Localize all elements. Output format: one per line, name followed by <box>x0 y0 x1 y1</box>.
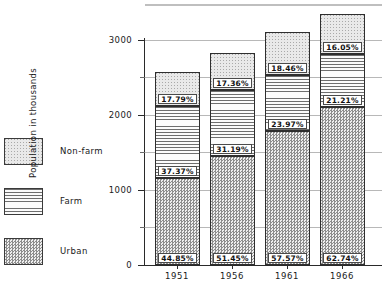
bar-segment-urban[interactable]: 62.74% <box>320 107 365 265</box>
segment-percent-label: 44.85% <box>158 253 197 263</box>
y-tick-minor-500 <box>140 227 145 228</box>
bar-segment-farm[interactable]: 21.21% <box>320 54 365 107</box>
x-axis-line <box>144 265 382 266</box>
bar-segment-non-farm[interactable]: 17.79% <box>155 72 200 106</box>
y-tick-1000 <box>138 190 145 191</box>
y-tick-minor-2500 <box>140 77 145 78</box>
x-tick-label-1956: 1956 <box>202 271 262 281</box>
bar-segment-farm[interactable]: 37.37% <box>155 106 200 178</box>
x-tick-1966 <box>342 265 343 269</box>
y-tick-0 <box>138 265 145 266</box>
bar-segment-non-farm[interactable]: 18.46% <box>265 32 310 75</box>
segment-percent-label: 51.45% <box>213 253 252 263</box>
segment-percent-label: 62.74% <box>323 253 362 263</box>
y-axis-title: Population in thousands <box>28 43 38 203</box>
x-tick-1956 <box>232 265 233 269</box>
bar-segment-urban[interactable]: 44.85% <box>155 178 200 265</box>
x-tick-label-1961: 1961 <box>257 271 317 281</box>
bar-1951[interactable]: 17.79% 37.37% 44.85% <box>155 72 200 265</box>
segment-percent-label: 31.19% <box>213 144 252 154</box>
segment-percent-label: 17.36% <box>213 78 252 88</box>
segment-percent-label: 37.37% <box>158 166 197 176</box>
y-tick-2000 <box>138 115 145 116</box>
y-tick-label-3000: 3000 <box>72 35 132 45</box>
bar-segment-urban[interactable]: 57.57% <box>265 131 310 265</box>
bar-segment-urban[interactable]: 51.45% <box>210 156 255 265</box>
x-tick-label-1966: 1966 <box>312 271 372 281</box>
y-tick-3000 <box>138 40 145 41</box>
bar-1961[interactable]: 18.46% 23.97% 57.57% <box>265 32 310 265</box>
segment-percent-label: 17.79% <box>158 94 197 104</box>
stacked-bar-chart: Population in thousands 3000 2000 1000 0… <box>0 0 382 291</box>
bar-1956[interactable]: 17.36% 31.19% 51.45% <box>210 53 255 265</box>
segment-percent-label: 23.97% <box>268 119 307 129</box>
bar-segment-non-farm[interactable]: 16.05% <box>320 14 365 54</box>
segment-percent-label: 16.05% <box>323 42 362 52</box>
y-tick-label-2000: 2000 <box>72 110 132 120</box>
x-tick-label-1951: 1951 <box>147 271 207 281</box>
y-tick-label-1000: 1000 <box>72 185 132 195</box>
segment-percent-label: 21.21% <box>323 95 362 105</box>
segment-percent-label: 18.46% <box>268 63 307 73</box>
bar-segment-non-farm[interactable]: 17.36% <box>210 53 255 90</box>
y-tick-label-0: 0 <box>72 260 132 270</box>
bar-segment-farm[interactable]: 23.97% <box>265 75 310 131</box>
y-tick-minor-1500 <box>140 152 145 153</box>
x-tick-1961 <box>287 265 288 269</box>
bar-segment-farm[interactable]: 31.19% <box>210 90 255 156</box>
segment-percent-label: 57.57% <box>268 253 307 263</box>
bar-1966[interactable]: 16.05% 21.21% 62.74% <box>320 14 365 265</box>
x-tick-1951 <box>177 265 178 269</box>
